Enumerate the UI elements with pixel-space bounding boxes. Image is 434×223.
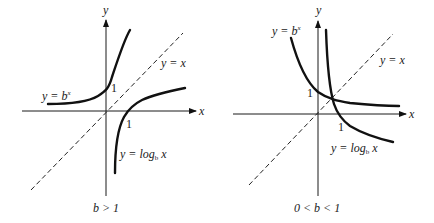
exponential-label: y = bx — [41, 89, 71, 103]
caption-b-greater-1: b > 1 — [93, 201, 119, 215]
x-tick-1: 1 — [338, 120, 344, 134]
x-axis-label: x — [198, 104, 205, 118]
x-axis-label: x — [408, 107, 415, 121]
identity-label: y = x — [160, 56, 186, 70]
y-axis-label: y — [315, 3, 322, 17]
logarithm-label: y = logb x — [330, 141, 378, 156]
y-tick-1: 1 — [111, 81, 117, 95]
caption-b-between-0-1: 0 < b < 1 — [294, 201, 340, 215]
panel-b-greater-than-1: y x y = x y = bx 1 1 y = logb x b > 1 — [22, 3, 205, 215]
logarithm-curve — [326, 30, 393, 142]
y-tick-1: 1 — [307, 86, 313, 100]
identity-line — [249, 34, 393, 185]
panel-b-between-0-and-1: y x y = x y = bx 1 1 y = logb x 0 < b < … — [233, 3, 415, 215]
logarithm-label-text: y = logb x — [119, 147, 167, 162]
identity-label: y = x — [379, 53, 405, 67]
x-tick-1: 1 — [126, 117, 132, 131]
exponential-label: y = bx — [271, 24, 301, 38]
y-axis-label: y — [102, 3, 109, 17]
figure-canvas: y x y = x y = bx 1 1 y = logb x b > 1 y … — [0, 0, 434, 223]
